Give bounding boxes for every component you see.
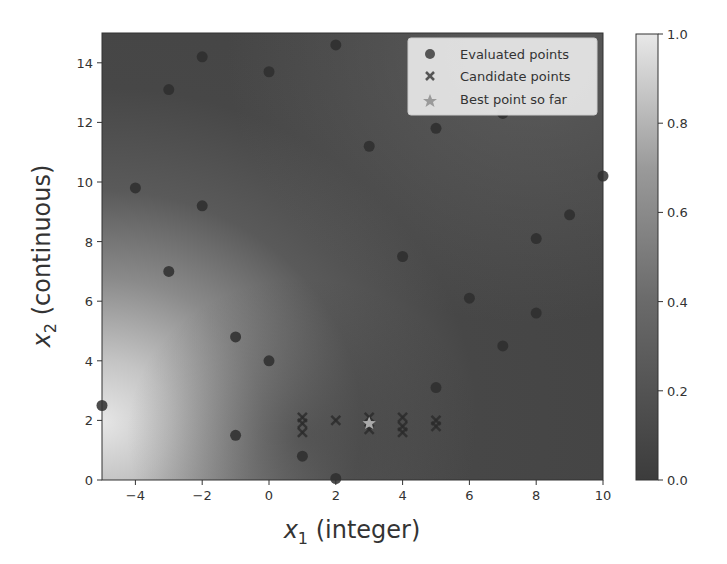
evaluated-point (264, 66, 275, 77)
x-tick-label: 8 (532, 488, 540, 503)
colorbar-ticks: 0.00.20.40.60.81.0 (658, 27, 688, 488)
evaluated-point (497, 340, 508, 351)
evaluated-point (531, 233, 542, 244)
legend-label-best: Best point so far (460, 92, 568, 107)
evaluated-point (130, 182, 141, 193)
y-axis-label: x2 (continuous) (28, 165, 60, 349)
x-axis-label: x1 (integer) (283, 516, 421, 548)
y-tick-label: 6 (85, 294, 93, 309)
evaluated-point (163, 266, 174, 277)
evaluated-point (197, 200, 208, 211)
evaluated-point (230, 331, 241, 342)
x-tick-label: 10 (595, 488, 612, 503)
y-tick-label: 2 (85, 413, 93, 428)
y-tick-label: 14 (76, 56, 93, 71)
y-tick-label: 10 (76, 175, 93, 190)
colorbar-tick-label: 0.2 (667, 384, 688, 399)
x-tick-label: 4 (398, 488, 406, 503)
x-axis-ticks: −4−20246810 (126, 480, 611, 503)
x-tick-label: −2 (193, 488, 212, 503)
y-tick-label: 4 (85, 354, 93, 369)
evaluated-point (431, 123, 442, 134)
evaluated-point (297, 451, 308, 462)
evaluated-point (330, 39, 341, 50)
evaluated-point (197, 51, 208, 62)
evaluated-point (230, 430, 241, 441)
colorbar: 0.00.20.40.60.81.0 (636, 27, 688, 488)
evaluated-point (564, 209, 575, 220)
colorbar-gradient (636, 34, 658, 480)
legend-circle-icon (425, 49, 435, 59)
y-axis-ticks: 02468101214 (76, 56, 102, 488)
colorbar-tick-label: 0.0 (667, 473, 688, 488)
x-tick-label: −4 (126, 488, 145, 503)
evaluated-point (163, 84, 174, 95)
y-tick-label: 12 (76, 115, 93, 130)
evaluated-point (431, 382, 442, 393)
colorbar-tick-label: 1.0 (667, 27, 688, 42)
y-tick-label: 8 (85, 235, 93, 250)
evaluated-point (531, 308, 542, 319)
x-tick-label: 2 (332, 488, 340, 503)
colorbar-tick-label: 0.4 (667, 295, 688, 310)
colorbar-tick-label: 0.6 (667, 205, 688, 220)
colorbar-tick-label: 0.8 (667, 116, 688, 131)
evaluated-point (364, 141, 375, 152)
chart-svg: −4−20246810 02468101214 x1 (integer) x2 … (0, 0, 727, 564)
legend-label-candidate: Candidate points (460, 69, 571, 84)
evaluated-point (264, 355, 275, 366)
x-tick-label: 0 (265, 488, 273, 503)
x-tick-label: 6 (465, 488, 473, 503)
y-tick-label: 0 (85, 473, 93, 488)
legend: Evaluated points Candidate points Best p… (408, 38, 597, 115)
evaluated-point (464, 293, 475, 304)
legend-label-evaluated: Evaluated points (460, 47, 569, 62)
evaluated-point (397, 251, 408, 262)
